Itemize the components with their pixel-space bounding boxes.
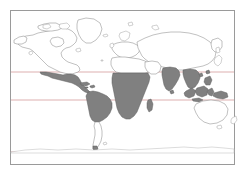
island-sakhalin [216, 47, 220, 53]
island-baffin [59, 23, 70, 29]
island-vancouver [29, 51, 33, 55]
island-newfoundland [76, 48, 81, 52]
world-map-canvas [0, 0, 244, 177]
island-jamaica [85, 87, 88, 88]
island-new-zealand [231, 116, 237, 124]
north-america-mainland [16, 28, 80, 74]
europe-outline [112, 42, 140, 58]
island-borneo [195, 86, 208, 97]
region-southeast-asia-indonesia [183, 69, 228, 102]
sub-saharan-africa-shaded [112, 73, 150, 119]
landmass-north-america [14, 23, 81, 74]
island-sumatra [184, 88, 196, 98]
landmass-asia [137, 32, 222, 74]
region-mexico-central-america [40, 72, 95, 93]
island-sri-lanka [170, 90, 174, 94]
south-america-shaded-amazon [86, 91, 112, 122]
north-africa-sahara [111, 57, 150, 73]
island-taiwan [206, 70, 210, 74]
region-india-subcontinent [162, 67, 180, 94]
landmass-australia [194, 100, 237, 129]
greenland-outline [77, 18, 102, 43]
island-iceland [103, 34, 108, 37]
island-philippines [204, 76, 212, 85]
australia-outline [194, 100, 228, 124]
india-shape [162, 67, 180, 91]
island-hispaniola [90, 85, 95, 88]
landmass-south-america [86, 91, 112, 151]
island-hainan [199, 73, 203, 77]
landmass-europe [103, 31, 140, 58]
island-svalbard [128, 22, 133, 26]
island-madagascar [147, 99, 153, 112]
indochina-peninsula [183, 69, 200, 89]
island-tasmania [217, 125, 222, 129]
scandinavia [119, 31, 130, 41]
island-azores [101, 60, 103, 61]
island-new-guinea [213, 91, 228, 99]
world-map-figure [0, 0, 244, 177]
antarctica-outline [11, 147, 234, 153]
landmass-antarctica [11, 147, 234, 153]
landmass-greenland [77, 18, 102, 43]
island-java [192, 98, 203, 102]
island-novaya-zemlya [152, 25, 159, 30]
island-falklands [103, 142, 107, 145]
